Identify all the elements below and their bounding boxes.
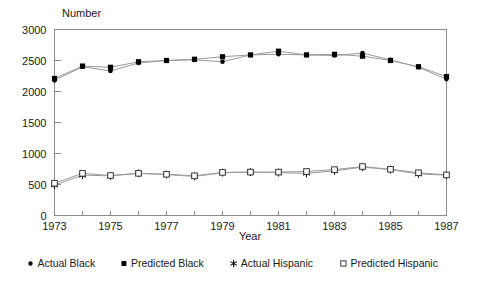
legend-item[interactable]: Predicted Black — [121, 257, 204, 269]
open-square-marker — [220, 170, 226, 176]
series-lines — [55, 51, 447, 185]
open-square-marker — [416, 170, 422, 176]
open-square-marker — [341, 261, 346, 266]
open-square-marker — [80, 171, 86, 177]
open-square-marker — [108, 173, 114, 179]
filled-square-marker — [444, 74, 449, 79]
open-square-marker — [164, 171, 170, 177]
filled-square-marker — [192, 57, 197, 62]
x-tick-label: 1987 — [434, 220, 458, 232]
y-tick-label: 1000 — [22, 148, 46, 160]
y-tick-label: 2500 — [22, 55, 46, 67]
legend-item-label: Predicted Black — [131, 257, 205, 269]
x-axis-title: Year — [239, 230, 262, 242]
star-marker — [230, 260, 236, 267]
filled-square-marker — [52, 76, 57, 81]
series-markers-predicted-hispanic — [52, 164, 450, 186]
legend-item-label: Predicted Hispanic — [350, 257, 438, 269]
filled-square-marker — [360, 54, 365, 59]
series-markers-predicted-black — [52, 49, 449, 81]
open-square-marker — [360, 164, 366, 170]
series-markers — [51, 49, 450, 189]
filled-square-marker — [121, 261, 126, 266]
open-square-marker — [52, 180, 58, 186]
chart-figure: 050010001500200025003000 197319751977197… — [0, 0, 478, 284]
legend-item-label: Actual Black — [38, 257, 97, 269]
legend-item-label: Actual Hispanic — [241, 257, 313, 269]
open-square-marker — [304, 169, 310, 175]
filled-square-marker — [220, 54, 225, 59]
filled-square-marker — [136, 59, 141, 64]
filled-square-marker — [164, 58, 169, 63]
x-tick-label: 1985 — [378, 220, 402, 232]
open-square-marker — [192, 173, 198, 179]
y-tick-label: 3000 — [22, 24, 46, 36]
filled-circle-marker — [28, 261, 32, 265]
y-axis-title: Number — [62, 7, 101, 19]
filled-square-marker — [248, 52, 253, 57]
filled-square-marker — [388, 58, 393, 63]
x-axis-ticks — [83, 211, 419, 216]
filled-square-marker — [416, 64, 421, 69]
x-tick-label: 1981 — [266, 220, 290, 232]
x-tick-label: 1983 — [322, 220, 346, 232]
x-tick-label: 1979 — [210, 220, 234, 232]
open-square-marker — [388, 167, 394, 173]
filled-square-marker — [304, 52, 309, 57]
open-square-marker — [444, 172, 450, 178]
y-tick-label: 1500 — [22, 117, 46, 129]
x-tick-label: 1977 — [154, 220, 178, 232]
line-chart: 050010001500200025003000 197319751977197… — [0, 0, 478, 284]
legend-item[interactable]: Actual Black — [28, 257, 96, 269]
legend-item[interactable]: Actual Hispanic — [230, 257, 313, 269]
open-square-marker — [248, 169, 254, 175]
y-tick-label: 2000 — [22, 86, 46, 98]
x-tick-label: 1973 — [42, 220, 66, 232]
filled-square-marker — [276, 49, 281, 54]
filled-square-marker — [108, 65, 113, 70]
y-axis-ticks — [55, 30, 61, 185]
chart-legend: Actual BlackPredicted BlackActual Hispan… — [28, 257, 438, 269]
filled-circle-marker — [220, 59, 225, 64]
filled-square-marker — [332, 52, 337, 57]
filled-square-marker — [80, 63, 85, 68]
x-tick-label: 1975 — [98, 220, 122, 232]
y-axis-tick-labels: 050010001500200025003000 — [22, 24, 46, 222]
open-square-marker — [276, 169, 282, 175]
open-square-marker — [136, 171, 142, 177]
y-tick-label: 500 — [28, 179, 46, 191]
open-square-marker — [332, 167, 338, 173]
legend-item[interactable]: Predicted Hispanic — [341, 257, 438, 269]
